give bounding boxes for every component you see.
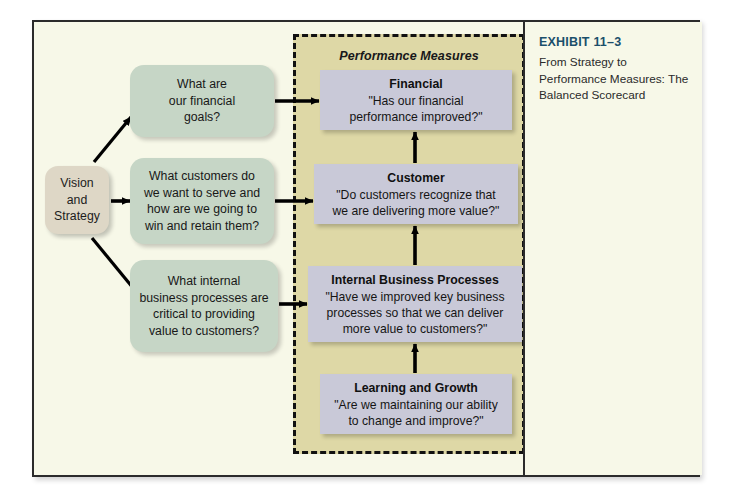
exhibit-caption-column: EXHIBIT 11–3 From Strategy to Performanc… xyxy=(523,22,702,475)
customer-measure-box[interactable]: Customer "Do customers recognize that we… xyxy=(314,164,518,224)
financial-measure-title: Financial xyxy=(389,76,442,92)
internal-process-question-text: What internal business processes are cri… xyxy=(131,273,276,339)
internal-process-question-box[interactable]: What internal business processes are cri… xyxy=(130,260,278,352)
internal-business-processes-measure-box[interactable]: Internal Business Processes "Have we imp… xyxy=(308,266,522,342)
vision-and-strategy-label: Vision and Strategy xyxy=(54,175,100,225)
customer-question-text: What customers do we want to serve and h… xyxy=(136,168,268,234)
vision-and-strategy-box[interactable]: Vision and Strategy xyxy=(45,166,109,234)
exhibit-frame: Performance Measures xyxy=(32,20,700,477)
learning-and-growth-measure-quote: "Are we maintaining our ability to chang… xyxy=(328,397,504,429)
exhibit-caption: From Strategy to Performance Measures: T… xyxy=(539,54,690,104)
internal-business-processes-measure-title: Internal Business Processes xyxy=(331,272,498,288)
internal-business-processes-measure-quote: "Have we improved key business processes… xyxy=(319,289,510,337)
financial-question-text: What are our financial goals? xyxy=(161,76,243,126)
arrow-vision-to-financial-question xyxy=(94,117,131,162)
customer-question-box[interactable]: What customers do we want to serve and h… xyxy=(130,158,274,244)
exhibit-number: EXHIBIT 11–3 xyxy=(539,35,690,49)
customer-measure-title: Customer xyxy=(387,170,444,186)
performance-measures-title: Performance Measures xyxy=(296,49,522,63)
exhibit-page: Performance Measures xyxy=(0,0,739,501)
customer-measure-quote: "Do customers recognize that we are deli… xyxy=(327,187,506,219)
learning-and-growth-measure-box[interactable]: Learning and Growth "Are we maintaining … xyxy=(320,374,512,434)
learning-and-growth-measure-title: Learning and Growth xyxy=(354,380,478,396)
financial-question-box[interactable]: What are our financial goals? xyxy=(130,65,274,137)
financial-measure-quote: "Has our financial performance improved?… xyxy=(343,93,488,125)
financial-measure-box[interactable]: Financial "Has our financial performance… xyxy=(320,70,512,130)
